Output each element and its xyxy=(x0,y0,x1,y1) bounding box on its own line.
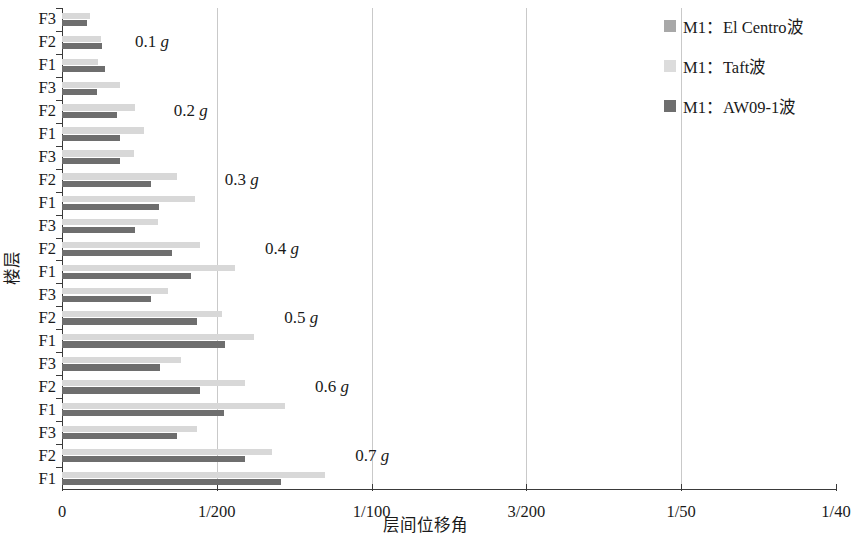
group-annotation: 0.7 g xyxy=(355,446,389,466)
group-annotation: 0.4 g xyxy=(265,239,299,259)
legend-swatch-taft-icon xyxy=(664,60,676,72)
y-axis-tick-label: F2 xyxy=(22,239,56,259)
bar xyxy=(62,20,87,26)
y-axis-tick-label: F1 xyxy=(22,55,56,75)
y-axis-tick xyxy=(56,260,63,261)
legend-label: M1：Taft波 xyxy=(683,54,766,78)
y-axis-tick-label: F3 xyxy=(22,354,56,374)
bar xyxy=(62,104,135,110)
bar xyxy=(62,150,134,156)
bar xyxy=(62,357,181,363)
legend-item: M1：El Centro波 xyxy=(664,14,804,38)
bar xyxy=(62,403,285,409)
bar xyxy=(62,112,117,118)
y-axis-tick xyxy=(56,375,63,376)
gridline xyxy=(217,8,218,490)
x-axis-title: 层间位移角 xyxy=(0,512,851,535)
y-axis-title: 楼层 xyxy=(0,251,23,285)
x-axis-tick xyxy=(681,484,682,491)
group-annotation: 0.2 g xyxy=(174,101,208,121)
y-axis-tick xyxy=(56,169,63,170)
y-axis-tick xyxy=(56,77,63,78)
bar xyxy=(62,158,120,164)
y-axis-tick xyxy=(56,238,63,239)
bar xyxy=(62,265,235,271)
bar xyxy=(62,410,224,416)
bar xyxy=(62,426,197,432)
chart-container: 0.1 g0.2 g0.3 g0.4 g0.5 g0.6 g0.7 g 01/2… xyxy=(0,0,851,535)
bar xyxy=(62,13,90,19)
legend-swatch-el-centro-icon xyxy=(664,20,676,32)
bar xyxy=(62,318,197,324)
legend-item: M1：AW09-1波 xyxy=(664,94,804,118)
bar xyxy=(62,449,272,455)
y-axis-tick-label: F1 xyxy=(22,469,56,489)
y-axis-tick-label: F3 xyxy=(22,285,56,305)
y-axis-tick xyxy=(56,146,63,147)
chart-legend: M1：El Centro波 M1：Taft波 M1：AW09-1波 xyxy=(664,14,804,118)
x-axis-tick xyxy=(836,484,837,491)
bar xyxy=(62,456,245,462)
y-axis-tick xyxy=(56,54,63,55)
bar xyxy=(62,59,98,65)
y-axis-tick xyxy=(56,31,63,32)
bar xyxy=(62,479,281,485)
bar xyxy=(62,181,151,187)
y-axis-tick xyxy=(56,467,63,468)
y-axis-tick-label: F1 xyxy=(22,124,56,144)
y-axis-tick-label: F2 xyxy=(22,170,56,190)
y-axis-tick xyxy=(56,192,63,193)
bar xyxy=(62,127,144,133)
y-axis-tick xyxy=(56,329,63,330)
bar xyxy=(62,196,195,202)
bar xyxy=(62,173,177,179)
bar xyxy=(62,66,105,72)
bar xyxy=(62,311,222,317)
bar xyxy=(62,334,254,340)
y-axis-tick-label: F1 xyxy=(22,331,56,351)
group-annotation: 0.5 g xyxy=(284,308,318,328)
y-axis-tick-label: F2 xyxy=(22,101,56,121)
bar xyxy=(62,135,120,141)
bar xyxy=(62,250,172,256)
y-axis-tick-label: F3 xyxy=(22,147,56,167)
bar xyxy=(62,341,225,347)
bar xyxy=(62,204,159,210)
bar xyxy=(62,89,97,95)
bar xyxy=(62,242,200,248)
y-axis-tick xyxy=(56,444,63,445)
y-axis-tick-label: F1 xyxy=(22,400,56,420)
y-axis-tick xyxy=(56,283,63,284)
bar xyxy=(62,288,168,294)
group-annotation: 0.1 g xyxy=(135,32,169,52)
group-annotation: 0.3 g xyxy=(225,170,259,190)
y-axis-tick-label: F3 xyxy=(22,9,56,29)
bar xyxy=(62,227,135,233)
y-axis-tick xyxy=(56,8,63,9)
y-axis-tick-label: F1 xyxy=(22,193,56,213)
x-axis-tick xyxy=(372,484,373,491)
y-axis-tick xyxy=(56,421,63,422)
bar xyxy=(62,387,200,393)
y-axis-tick-label: F2 xyxy=(22,377,56,397)
y-axis-tick-label: F3 xyxy=(22,78,56,98)
y-axis-tick xyxy=(56,306,63,307)
bar xyxy=(62,82,120,88)
bar xyxy=(62,273,191,279)
bar xyxy=(62,364,160,370)
legend-label: M1：AW09-1波 xyxy=(683,94,796,118)
y-axis-tick-label: F2 xyxy=(22,308,56,328)
y-axis-tick-label: F2 xyxy=(22,446,56,466)
bar xyxy=(62,472,325,478)
y-axis-tick-label: F1 xyxy=(22,262,56,282)
bar xyxy=(62,43,102,49)
bar xyxy=(62,219,158,225)
y-axis-tick-label: F3 xyxy=(22,423,56,443)
y-axis-tick xyxy=(56,123,63,124)
bar xyxy=(62,296,151,302)
bar xyxy=(62,380,245,386)
y-axis-tick xyxy=(56,352,63,353)
gridline xyxy=(372,8,373,490)
x-axis-tick xyxy=(526,484,527,491)
legend-label: M1：El Centro波 xyxy=(683,14,804,38)
